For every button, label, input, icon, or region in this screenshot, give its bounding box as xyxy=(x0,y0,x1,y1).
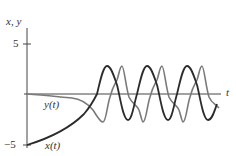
x-curve-label: x(t) xyxy=(45,140,60,151)
t-axis-label: t xyxy=(226,87,229,98)
tick-label-neg5: −5 xyxy=(4,139,16,150)
y-curve-label: y(t) xyxy=(44,99,59,110)
tick-label-5: 5 xyxy=(13,38,19,49)
y-axis-label: x, y xyxy=(6,16,21,27)
chart-canvas xyxy=(0,0,236,156)
